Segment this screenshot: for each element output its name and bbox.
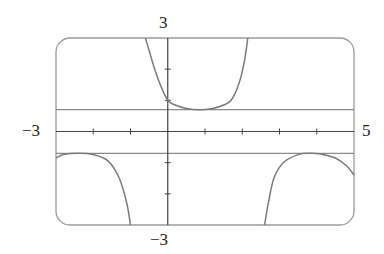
y-min-label: −3 — [150, 231, 168, 248]
lower-left-branch-curve — [56, 153, 131, 225]
y-max-label: 3 — [159, 14, 168, 31]
plot-area — [0, 0, 384, 254]
lower-right-branch-curve — [265, 153, 354, 225]
x-max-label: 5 — [362, 122, 371, 139]
x-min-label: −3 — [22, 122, 40, 139]
axes — [56, 38, 354, 225]
upper-branch-curve — [145, 38, 247, 110]
